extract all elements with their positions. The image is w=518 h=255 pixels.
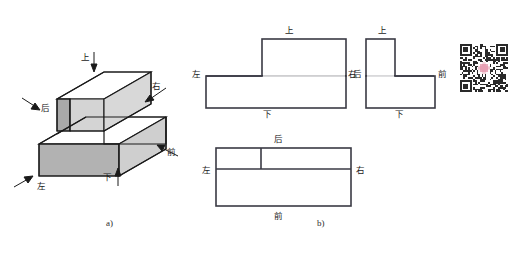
caption-a: a) xyxy=(106,218,113,228)
iso-label-top: 上 xyxy=(81,53,90,62)
front-view-upper-rect xyxy=(262,39,346,76)
top-view-label-front: 前 xyxy=(274,212,283,221)
front-view-label-top: 上 xyxy=(285,26,294,35)
side-view-lower-rect xyxy=(366,76,435,108)
arrow-top-head xyxy=(91,64,97,72)
upper-block-left-face xyxy=(57,99,70,131)
front-view-label-left: 左 xyxy=(192,70,201,79)
top-view-label-back: 后 xyxy=(274,135,283,144)
front-view-drawing xyxy=(205,38,360,110)
top-view-outer-rect xyxy=(216,148,351,206)
iso-label-left: 左 xyxy=(37,182,46,191)
front-view-lower-rect xyxy=(206,76,346,108)
iso-label-right: 右 xyxy=(152,82,161,91)
top-view-drawing xyxy=(215,147,360,209)
qr-code-canvas xyxy=(460,44,508,92)
figure-root: 上 后 右 前 左 下 a) 上 左 右 下 xyxy=(0,0,518,255)
side-view-label-back: 后 xyxy=(353,70,362,79)
orthographic-panel: 上 左 右 下 上 后 前 下 后 左 右 前 xyxy=(190,0,480,255)
qr-code[interactable] xyxy=(460,44,508,92)
side-view-label-bottom: 下 xyxy=(395,110,404,119)
caption-b: b) xyxy=(317,218,325,228)
arrow-back-head xyxy=(31,103,40,110)
side-view-label-front: 前 xyxy=(438,70,447,79)
front-view-label-bottom: 下 xyxy=(263,110,272,119)
side-view-label-top: 上 xyxy=(378,26,387,35)
top-view-label-left: 左 xyxy=(202,166,211,175)
side-view-upper-rect xyxy=(366,39,395,76)
arrow-left-head xyxy=(24,176,33,183)
upper-block-front-face xyxy=(70,99,104,131)
iso-label-front: 前 xyxy=(167,148,176,157)
iso-label-bottom: 下 xyxy=(103,173,112,182)
top-view-label-right: 右 xyxy=(356,166,365,175)
iso-label-back: 后 xyxy=(41,104,50,113)
